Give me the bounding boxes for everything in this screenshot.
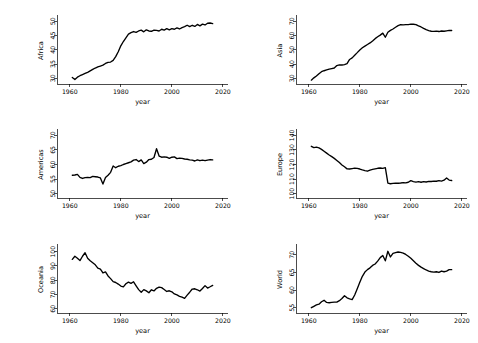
y-tick-label: 30: [49, 74, 56, 82]
x-tick-label: 1960: [62, 88, 78, 95]
y-tick-label: 100: [49, 246, 56, 258]
x-axis-title: year: [374, 98, 389, 106]
x-tick-label: 1980: [113, 88, 129, 95]
y-tick-label: 60: [49, 161, 56, 169]
series-line: [72, 253, 212, 299]
plot-area-africa: 30354045501960198020002020Africayear: [0, 0, 239, 114]
x-tick-label: 2020: [215, 317, 231, 324]
x-axis-title: year: [374, 327, 389, 335]
y-tick-label: 70: [49, 131, 56, 139]
y-tick-label: 65: [49, 146, 56, 154]
y-tick-label: 50: [288, 46, 295, 54]
y-axis-title: Oceania: [37, 266, 45, 293]
axis-lines: [296, 129, 467, 198]
y-tick-label: 30: [288, 74, 295, 82]
axis-lines: [296, 244, 467, 313]
y-axis-title: Americas: [37, 149, 45, 180]
y-tick-label: 65: [288, 268, 295, 276]
series-line: [311, 146, 451, 183]
x-tick-label: 1960: [301, 88, 317, 95]
y-tick-label: 60: [288, 286, 295, 294]
y-tick-label: 50: [49, 190, 56, 198]
y-axis-title: Asia: [276, 44, 284, 58]
x-tick-label: 1960: [301, 202, 317, 209]
plot-area-americas: 50556065701960198020002020Americasyear: [0, 114, 239, 228]
x-tick-label: 2020: [215, 88, 231, 95]
plot-area-europe: 1001101201301401960198020002020Europeyea…: [239, 114, 478, 228]
y-tick-label: 45: [49, 32, 56, 40]
y-tick-label: 80: [49, 276, 56, 284]
axis-lines: [57, 15, 228, 84]
y-tick-label: 130: [288, 144, 295, 156]
series-line: [311, 251, 451, 307]
x-tick-label: 1960: [301, 317, 317, 324]
figure-panel-grid: 30354045501960198020002020Africayear3040…: [0, 0, 478, 343]
x-tick-label: 1980: [113, 317, 129, 324]
y-tick-label: 40: [49, 46, 56, 54]
x-axis-title: year: [135, 212, 150, 220]
series-line: [311, 24, 451, 80]
x-tick-label: 1960: [62, 202, 78, 209]
plot-area-oceania: 607080901001960198020002020Oceaniayear: [0, 229, 239, 343]
x-tick-label: 1980: [352, 317, 368, 324]
y-tick-label: 120: [288, 159, 295, 171]
plot-area-world: 556065701960198020002020Worldyear: [239, 229, 478, 343]
y-axis-title: World: [276, 270, 284, 289]
series-line: [72, 23, 212, 79]
panel-oceania: 607080901001960198020002020Oceaniayear: [0, 229, 239, 343]
y-tick-label: 40: [288, 60, 295, 68]
y-axis-title: Europe: [276, 153, 284, 176]
y-tick-label: 55: [49, 175, 56, 183]
y-tick-label: 70: [49, 290, 56, 298]
x-tick-label: 2000: [164, 88, 180, 95]
y-tick-label: 100: [288, 188, 295, 200]
axis-lines: [57, 244, 228, 313]
x-axis-title: year: [135, 327, 150, 335]
series-line: [72, 149, 212, 184]
y-axis-title: Africa: [37, 41, 45, 60]
x-tick-label: 2020: [215, 202, 231, 209]
axis-lines: [57, 129, 228, 198]
y-tick-label: 35: [49, 60, 56, 68]
x-tick-label: 2000: [403, 88, 419, 95]
panel-europe: 1001101201301401960198020002020Europeyea…: [239, 114, 478, 228]
x-axis-title: year: [374, 212, 389, 220]
y-tick-label: 70: [288, 17, 295, 25]
x-axis-title: year: [135, 98, 150, 106]
x-tick-label: 2000: [164, 202, 180, 209]
x-tick-label: 2000: [403, 202, 419, 209]
y-tick-label: 60: [288, 32, 295, 40]
y-tick-label: 55: [288, 304, 295, 312]
y-tick-label: 50: [49, 17, 56, 25]
x-tick-label: 2020: [454, 202, 470, 209]
panel-africa: 30354045501960198020002020Africayear: [0, 0, 239, 114]
x-tick-label: 1980: [352, 202, 368, 209]
x-tick-label: 2000: [164, 317, 180, 324]
y-tick-label: 140: [288, 129, 295, 141]
axis-lines: [296, 15, 467, 84]
y-tick-label: 60: [49, 305, 56, 313]
panel-world: 556065701960198020002020Worldyear: [239, 229, 478, 343]
panel-asia: 30405060701960198020002020Asiayear: [239, 0, 478, 114]
y-tick-label: 70: [288, 251, 295, 259]
y-tick-label: 110: [288, 173, 295, 185]
x-tick-label: 1980: [113, 202, 129, 209]
x-tick-label: 1980: [352, 88, 368, 95]
x-tick-label: 2020: [454, 88, 470, 95]
x-tick-label: 1960: [62, 317, 78, 324]
x-tick-label: 2020: [454, 317, 470, 324]
plot-area-asia: 30405060701960198020002020Asiayear: [239, 0, 478, 114]
y-tick-label: 90: [49, 262, 56, 270]
x-tick-label: 2000: [403, 317, 419, 324]
panel-americas: 50556065701960198020002020Americasyear: [0, 114, 239, 228]
